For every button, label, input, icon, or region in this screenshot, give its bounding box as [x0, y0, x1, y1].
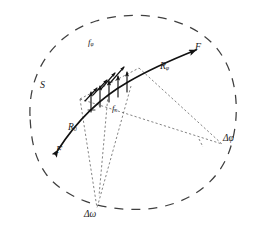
label-delta-omega: Δω: [84, 210, 96, 220]
label-region-s: S: [40, 80, 45, 90]
label-force-upper: F: [195, 42, 201, 52]
label-radius-phi: Rφ: [160, 62, 169, 72]
figure-canvas: S fφ fn Rφ R0 F F Δφ Δω: [0, 0, 257, 238]
construction-lines-omega: [80, 86, 131, 208]
label-force-lower: F: [56, 145, 62, 155]
construction-lines-phi: [80, 68, 222, 147]
label-force-tangential: fφ: [88, 38, 94, 48]
label-radius-zero: R0: [68, 123, 77, 133]
diagram-svg: [0, 0, 257, 238]
region-boundary-dashed: [30, 15, 236, 209]
label-force-normal: fn: [112, 104, 117, 114]
label-delta-phi: Δφ: [223, 134, 234, 144]
